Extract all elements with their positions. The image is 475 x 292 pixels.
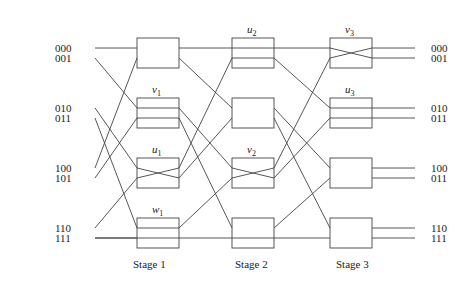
switch-label-v3: v3: [345, 23, 354, 38]
output-label: 111: [431, 233, 447, 243]
output-label: 001: [431, 53, 448, 63]
omega-network-diagram: 000 001 010 011 100 101 110 111 000 001 …: [0, 0, 475, 292]
stage-3-switches: [330, 38, 372, 248]
switch-label-u2: u2: [247, 23, 257, 38]
input-label: 111: [55, 233, 71, 243]
switch-label-u3: u3: [345, 83, 355, 98]
stage-label-2: Stage 2: [235, 258, 268, 270]
input-label: 001: [55, 53, 72, 63]
switch-label-v1: v1: [152, 83, 161, 98]
input-label: 011: [55, 113, 71, 123]
output-label: 011: [431, 113, 447, 123]
switch-label-u1: u1: [152, 143, 162, 158]
stage-label-3: Stage 3: [336, 258, 369, 270]
stage-label-1: Stage 1: [133, 258, 166, 270]
output-label: 011: [431, 173, 447, 183]
input-label: 101: [55, 173, 72, 183]
switch-label-v2: v2: [247, 143, 256, 158]
switch-label-w1: w1: [152, 203, 163, 218]
